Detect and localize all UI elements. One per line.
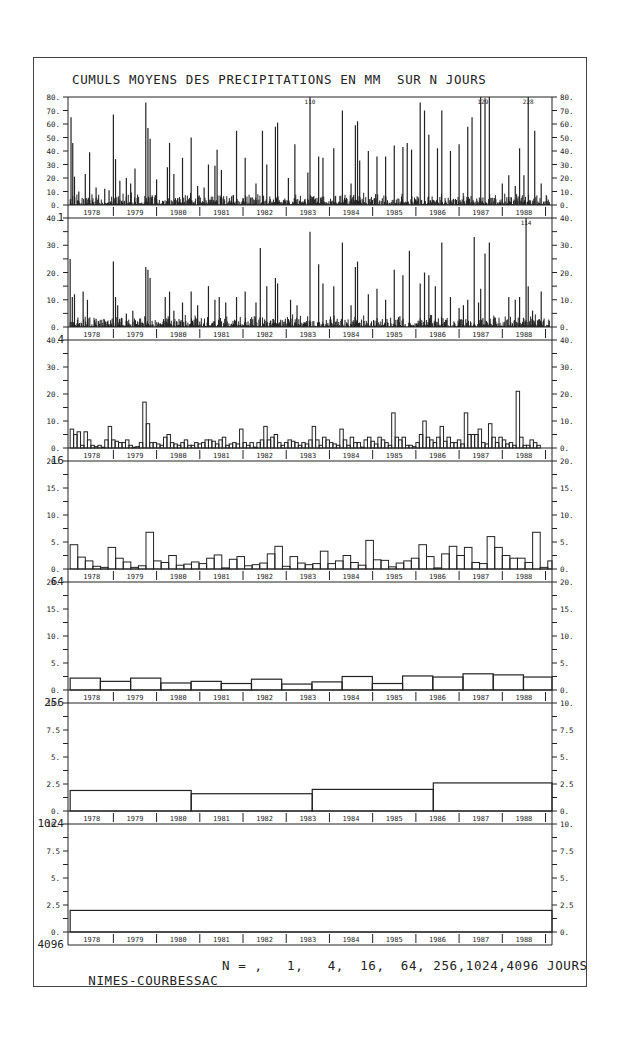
precip-bar: [495, 443, 498, 448]
year-label: 1986: [429, 936, 446, 944]
chart-footer: NIMES-COURBESSAC N = , 1, 4, 16, 64, 256…: [72, 958, 218, 1003]
year-label: 1982: [256, 694, 273, 702]
y-tick-label-left: 5.: [51, 538, 60, 547]
precip-bar: [482, 443, 485, 448]
precip-bar: [478, 429, 481, 448]
y-tick-label-right: 10.: [560, 188, 574, 197]
precip-bar: [433, 783, 552, 811]
year-label: 1979: [127, 331, 144, 339]
precip-bar: [471, 435, 474, 449]
precip-bar: [70, 429, 73, 448]
year-label: 1986: [429, 815, 446, 823]
precip-bar: [395, 437, 398, 448]
y-tick-label-right: 0.: [560, 323, 569, 332]
precip-bar: [461, 444, 464, 448]
y-tick-label-right: 10.: [560, 417, 574, 426]
precip-bar: [154, 561, 162, 569]
y-tick-label-left: 10.: [46, 417, 60, 426]
year-label: 1986: [429, 573, 446, 581]
precip-bar: [361, 447, 364, 448]
precip-bar: [164, 437, 167, 448]
y-tick-label-left: 40.: [46, 214, 60, 223]
precip-bar: [399, 440, 402, 448]
precip-bar: [357, 443, 360, 448]
precip-bar: [403, 676, 433, 690]
precip-bar: [233, 443, 236, 448]
precip-bar: [305, 565, 313, 569]
precip-bar: [116, 558, 124, 569]
year-label: 1988: [515, 815, 532, 823]
y-tick-label-right: 2.5: [560, 901, 574, 910]
y-tick-label-left: 0.: [51, 444, 60, 453]
year-label: 1978: [83, 209, 100, 217]
year-label: 1988: [515, 573, 532, 581]
year-label: 1987: [472, 694, 489, 702]
y-tick-label-left: 0.: [51, 807, 60, 816]
precip-bar: [250, 443, 253, 448]
precip-bar: [146, 532, 154, 569]
y-tick-label-right: 0.: [560, 686, 569, 695]
precip-bar: [440, 426, 443, 448]
y-tick-label-left: 40.: [46, 336, 60, 345]
y-tick-label-right: 10.: [560, 511, 574, 520]
precip-bar: [205, 440, 208, 448]
precip-bar: [475, 435, 478, 449]
precip-bar: [123, 562, 131, 569]
y-tick-label-left: 10.: [46, 188, 60, 197]
y-tick-label-left: 7.5: [46, 726, 60, 735]
precip-bar: [243, 443, 246, 448]
precip-bar: [492, 437, 495, 448]
year-label: 1984: [343, 936, 360, 944]
precip-bar: [450, 443, 453, 448]
y-tick-label-right: 0.: [560, 201, 569, 210]
precip-bar: [430, 440, 433, 448]
precip-bar: [312, 789, 433, 811]
year-label: 1984: [343, 452, 360, 460]
precip-bar: [125, 440, 128, 448]
precip-bar: [282, 684, 312, 690]
precip-bar: [423, 421, 426, 448]
y-tick-label-right: 40.: [560, 147, 574, 156]
precip-bar: [419, 545, 427, 569]
year-label: 1985: [386, 936, 403, 944]
precip-bar: [94, 447, 97, 448]
y-tick-label-right: 80.: [560, 93, 574, 102]
precip-bar: [153, 443, 156, 448]
year-label: 1983: [299, 815, 316, 823]
precip-bar: [70, 678, 100, 690]
precip-bar: [323, 437, 326, 448]
y-tick-label-left: 20.: [46, 390, 60, 399]
precip-bar: [274, 435, 277, 449]
precip-bar: [372, 684, 402, 690]
year-label: 1978: [83, 936, 100, 944]
precip-bar: [271, 437, 274, 448]
year-label: 1983: [299, 452, 316, 460]
year-label: 1985: [386, 694, 403, 702]
plot-stack: 0.0.10.10.20.20.30.30.40.40.50.50.60.60.…: [0, 0, 621, 1041]
precip-bar: [493, 675, 523, 690]
precip-bar: [457, 556, 465, 570]
precip-bar: [457, 440, 460, 448]
year-label: 1987: [472, 936, 489, 944]
precip-bar: [87, 440, 90, 448]
precip-bar: [433, 677, 463, 690]
precip-bar: [312, 426, 315, 448]
year-label: 1981: [213, 694, 230, 702]
precip-bar: [499, 437, 502, 448]
precip-bar: [191, 794, 312, 811]
year-label: 1985: [386, 573, 403, 581]
precip-bar: [463, 674, 493, 690]
precip-bar: [139, 443, 142, 448]
precip-bar: [404, 561, 412, 569]
precip-bar: [161, 683, 191, 690]
precip-bar: [402, 437, 405, 448]
peak-annotation: 114: [521, 219, 532, 226]
precip-bar: [77, 432, 80, 448]
precip-bar: [434, 568, 442, 569]
year-label: 1979: [127, 209, 144, 217]
station-name: NIMES-COURBESSAC: [88, 973, 218, 988]
y-tick-label-left: 5.: [51, 659, 60, 668]
precip-bar: [351, 563, 359, 569]
precip-bar: [487, 537, 495, 569]
precip-bar: [485, 444, 488, 448]
